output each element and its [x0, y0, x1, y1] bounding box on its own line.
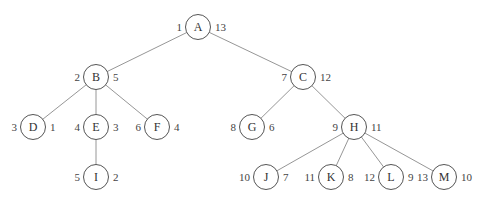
node-i: I	[83, 164, 109, 190]
node-i-right-number: 2	[113, 171, 119, 183]
node-l-right-number: 9	[408, 171, 414, 183]
node-g: G	[239, 114, 265, 140]
edge-a-b	[96, 27, 198, 77]
node-h-left-number: 9	[333, 121, 339, 133]
node-c-left-number: 7	[282, 71, 288, 83]
node-k-right-number: 8	[348, 171, 354, 183]
node-m: M	[431, 164, 457, 190]
node-e: E	[83, 114, 109, 140]
node-g-left-number: 8	[231, 121, 237, 133]
node-k-left-number: 11	[304, 171, 315, 183]
node-m-left-number: 13	[417, 171, 428, 183]
node-c-right-number: 12	[320, 71, 331, 83]
node-g-right-number: 6	[269, 121, 275, 133]
node-d: D	[20, 114, 46, 140]
node-a-right-number: 13	[215, 21, 226, 33]
node-j-left-number: 10	[239, 171, 250, 183]
node-b: B	[83, 64, 109, 90]
node-l-left-number: 12	[364, 171, 375, 183]
node-e-left-number: 4	[75, 121, 81, 133]
node-l: L	[378, 164, 404, 190]
node-f-right-number: 4	[174, 121, 180, 133]
node-b-right-number: 5	[113, 71, 119, 83]
node-j-right-number: 7	[283, 171, 289, 183]
tree-diagram: A113B25C712D31E43F64G86H911I52J107K118L1…	[0, 0, 477, 201]
node-c: C	[290, 64, 316, 90]
node-i-left-number: 5	[75, 171, 81, 183]
node-f-left-number: 6	[136, 121, 142, 133]
node-a: A	[185, 14, 211, 40]
node-d-right-number: 1	[50, 121, 56, 133]
node-d-left-number: 3	[12, 121, 18, 133]
node-b-left-number: 2	[75, 71, 81, 83]
node-e-right-number: 3	[113, 121, 119, 133]
node-j: J	[253, 164, 279, 190]
node-f: F	[144, 114, 170, 140]
edge-a-c	[198, 27, 303, 77]
node-k: K	[318, 164, 344, 190]
node-h-right-number: 11	[371, 121, 382, 133]
node-a-left-number: 1	[177, 21, 183, 33]
node-h: H	[341, 114, 367, 140]
node-m-right-number: 10	[461, 171, 472, 183]
